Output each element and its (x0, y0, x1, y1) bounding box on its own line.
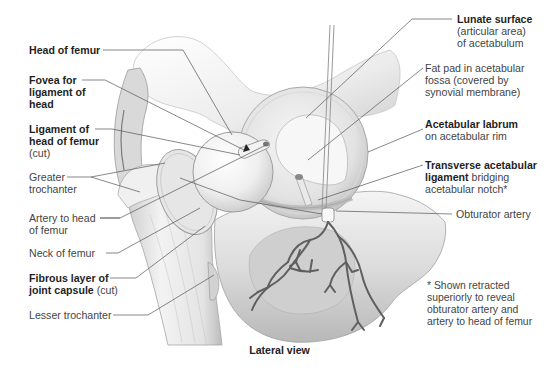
label-lunate-line-1: Lunate surface (457, 13, 532, 25)
footnote-line-4: artery to head of femur (427, 316, 532, 328)
footnote-line-1: * Shown retracted (427, 280, 532, 292)
label-lunate-line-3: of acetabulum (457, 37, 532, 49)
label-fat-pad-line-3: synovial membrane) (425, 86, 525, 98)
footnote-line-3: obturator artery and (427, 304, 532, 316)
label-fat-pad-line-1: Fat pad in acetabular (425, 62, 525, 74)
label-transverse-line-1: Transverse acetabular (425, 159, 537, 171)
label-neck-femur: Neck of femur (29, 247, 95, 259)
label-ligament-head-cut: (cut) (29, 147, 99, 159)
hip-joint-diagram: Head of femur Fovea for ligament of head… (0, 0, 559, 377)
label-fibrous-layer-line-1: Fibrous layer of (29, 272, 118, 284)
label-lesser-trochanter: Lesser trochanter (29, 309, 111, 321)
label-obturator-text: Obturator artery (456, 208, 531, 220)
label-labrum-line-2: on acetabular rim (425, 130, 518, 142)
label-fibrous-layer-cut: (cut) (94, 284, 118, 296)
label-fovea-line-2: ligament of (29, 86, 86, 98)
label-fibrous-layer: Fibrous layer of joint capsule (cut) (29, 272, 118, 296)
label-artery-head-line-2: of femur (29, 224, 96, 236)
label-acetabular-labrum: Acetabular labrum on acetabular rim (425, 118, 518, 142)
label-artery-head-line-1: Artery to head (29, 212, 96, 224)
label-transverse-bridging: bridging (469, 171, 510, 183)
label-greater-trochanter: Greater trochanter (29, 171, 77, 195)
label-lesser-trochanter-text: Lesser trochanter (29, 309, 111, 321)
label-fovea-line-1: Fovea for (29, 74, 86, 86)
label-greater-trochanter-line-1: Greater (29, 171, 77, 183)
view-caption: Lateral view (0, 344, 559, 356)
label-labrum-line-1: Acetabular labrum (425, 118, 518, 130)
label-head-of-femur: Head of femur (29, 44, 100, 56)
label-head-of-femur-text: Head of femur (29, 44, 100, 56)
label-lunate-surface: Lunate surface (articular area) of aceta… (457, 13, 532, 50)
label-transverse-line-2: ligament (425, 171, 469, 183)
label-ligament-head-line-2: head of femur (29, 135, 99, 147)
leader-labrum (368, 129, 423, 152)
footnote: * Shown retracted superiorly to reveal o… (427, 280, 532, 328)
label-fovea-line-3: head (29, 98, 86, 110)
label-ligament-head: Ligament of head of femur (cut) (29, 123, 99, 160)
label-fibrous-layer-line-2: joint capsule (29, 284, 94, 296)
label-lunate-line-2: (articular area) (457, 25, 532, 37)
label-obturator-artery: Obturator artery (456, 208, 531, 220)
footnote-line-2: superiorly to reveal (427, 292, 532, 304)
label-neck-femur-text: Neck of femur (29, 247, 95, 259)
label-fovea: Fovea for ligament of head (29, 74, 86, 111)
label-fat-pad-line-2: fossa (covered by (425, 74, 525, 86)
label-transverse-ligament: Transverse acetabular ligament bridging … (425, 159, 537, 196)
label-artery-head: Artery to head of femur (29, 212, 96, 236)
label-ligament-head-line-1: Ligament of (29, 123, 99, 135)
label-greater-trochanter-line-2: trochanter (29, 183, 77, 195)
label-transverse-line-3: acetabular notch* (425, 183, 537, 195)
label-fat-pad: Fat pad in acetabular fossa (covered by … (425, 62, 525, 99)
